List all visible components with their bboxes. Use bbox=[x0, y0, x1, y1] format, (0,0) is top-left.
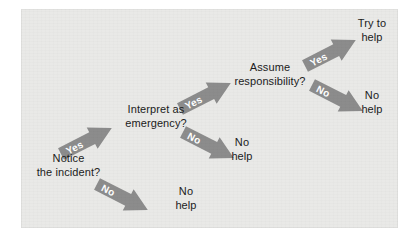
figure-canvas: Yes No Yes No Yes bbox=[0, 0, 414, 240]
node-interpret-as-emergency: Interpret as emergency? bbox=[113, 103, 199, 130]
arrow-notice-no: No bbox=[92, 173, 154, 220]
node-assume-responsibility: Assume responsibility? bbox=[224, 61, 316, 88]
node-no-help-interpret: No help bbox=[220, 136, 264, 163]
node-no-help-responsibility: No help bbox=[350, 89, 394, 116]
node-no-help-notice: No help bbox=[164, 185, 208, 212]
node-try-to-help: Try to help bbox=[346, 17, 398, 44]
figure-panel: Yes No Yes No Yes bbox=[21, 9, 398, 228]
node-notice: Notice the incident? bbox=[26, 152, 111, 179]
